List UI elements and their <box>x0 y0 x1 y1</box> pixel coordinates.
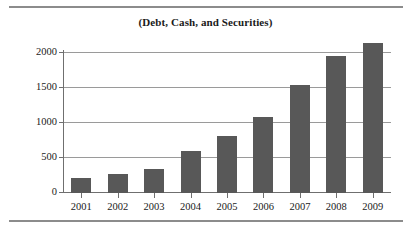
bar-2007 <box>290 85 310 193</box>
bar-2005 <box>217 136 237 193</box>
gridline-2000 <box>63 52 391 53</box>
y-tick-1500 <box>59 87 64 88</box>
y-axis-label-1500: 1500 <box>36 82 57 93</box>
x-tick-2009 <box>373 193 374 198</box>
bar-2004 <box>181 151 201 193</box>
y-axis-label-0: 0 <box>52 187 57 198</box>
y-axis-label-500: 500 <box>41 152 57 163</box>
y-axis-label-2000: 2000 <box>36 47 57 58</box>
x-axis-label-2005: 2005 <box>217 202 238 213</box>
bar-2006 <box>253 117 273 193</box>
x-axis-label-2006: 2006 <box>253 202 274 213</box>
x-axis-label-2008: 2008 <box>326 202 347 213</box>
plot-area: 0500100015002000 20012002200320042005200… <box>63 50 391 194</box>
y-tick-1000 <box>59 122 64 123</box>
bar-2002 <box>108 174 128 193</box>
x-tick-2003 <box>154 193 155 198</box>
x-axis-label-2003: 2003 <box>144 202 165 213</box>
y-axis-label-1000: 1000 <box>36 117 57 128</box>
figure-bottom-rule <box>9 220 403 222</box>
x-tick-2001 <box>81 193 82 198</box>
chart-title: (Debt, Cash, and Securities) <box>0 16 411 28</box>
x-axis-label-2007: 2007 <box>289 202 310 213</box>
y-tick-500 <box>59 157 64 158</box>
bar-2003 <box>144 169 164 193</box>
y-tick-2000 <box>59 52 64 53</box>
x-axis-label-2002: 2002 <box>107 202 128 213</box>
x-tick-2002 <box>118 193 119 198</box>
y-tick-0 <box>59 192 64 193</box>
x-axis-label-2004: 2004 <box>180 202 201 213</box>
figure-bar-chart: (Debt, Cash, and Securities) 05001000150… <box>0 0 411 232</box>
x-tick-2008 <box>336 193 337 198</box>
x-tick-2006 <box>263 193 264 198</box>
x-tick-2005 <box>227 193 228 198</box>
bar-2008 <box>326 56 346 193</box>
x-axis-label-2009: 2009 <box>362 202 383 213</box>
bar-2009 <box>363 43 383 193</box>
bar-2001 <box>71 178 91 193</box>
x-tick-2007 <box>300 193 301 198</box>
figure-top-rule <box>9 6 403 8</box>
x-axis-label-2001: 2001 <box>71 202 92 213</box>
x-tick-2004 <box>191 193 192 198</box>
